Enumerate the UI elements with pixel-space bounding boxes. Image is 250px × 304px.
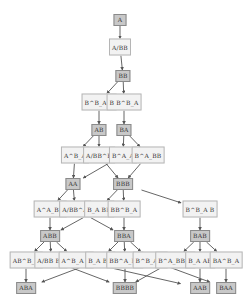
word-node: ABA — [16, 282, 36, 294]
node-label: ABB — [43, 233, 57, 239]
node-label: BBBB — [116, 285, 134, 291]
move-node: B^B_A B — [183, 201, 218, 218]
edge-arrow — [35, 242, 45, 252]
edge-arrow — [207, 242, 217, 252]
node-label: B^A_BB — [135, 152, 162, 158]
edge-arrow — [106, 164, 118, 179]
word-node: BAB — [190, 230, 210, 242]
node-label: BB — [118, 73, 127, 79]
edge-arrow — [109, 242, 119, 252]
edge-arrow — [130, 136, 140, 147]
word-node: BBA — [114, 230, 134, 242]
node-label: BB^B_A — [111, 206, 138, 212]
word-node: BA — [116, 124, 131, 136]
node-label: B_A AB — [188, 257, 212, 263]
node-label: BBA — [117, 233, 131, 239]
word-node: ABB — [40, 230, 60, 242]
edge-arrow — [58, 190, 68, 201]
node-label: AA — [68, 181, 77, 187]
rewriting-graph: AA/BBBBB^B_A BB B^B_AABBAA^B_AA/BB^BB^A_… — [0, 0, 250, 304]
node-label: BBB — [116, 181, 130, 187]
node-label: BA — [119, 127, 128, 133]
edge-arrow — [121, 56, 123, 71]
move-node: B^A_BB — [132, 147, 165, 164]
word-node: BBBB — [113, 282, 137, 294]
word-node: A — [114, 14, 127, 26]
edge-arrow — [57, 242, 67, 252]
word-node: BAA — [216, 282, 236, 294]
word-node: AA — [65, 178, 80, 190]
edge-arrow — [90, 218, 113, 231]
node-label: B^B_A B — [186, 206, 215, 212]
edge-arrow — [169, 267, 210, 282]
word-node: BB — [115, 70, 130, 82]
move-node: BA^B_A — [210, 252, 243, 269]
node-label: B B^B_A — [110, 99, 139, 105]
node-label: AAB — [193, 285, 207, 291]
edge-arrow — [141, 190, 180, 203]
edge-arrow — [73, 164, 74, 179]
move-node: A/BB — [109, 39, 131, 56]
edge-arrow — [131, 242, 141, 252]
edge-arrow — [136, 269, 160, 283]
edge-arrow — [107, 190, 117, 201]
node-label: BA^B_A — [213, 257, 240, 263]
node-label: A/BB — [112, 44, 128, 50]
edge-arrow — [83, 136, 93, 147]
edge-arrow — [128, 164, 141, 179]
edge-arrow — [107, 82, 118, 94]
move-node: B B^B_A — [107, 94, 142, 111]
node-label: A — [118, 17, 123, 23]
node-label: ABA — [19, 285, 33, 291]
edge-arrow — [184, 242, 194, 252]
edge-arrow — [61, 218, 84, 231]
edge-arrow — [83, 164, 108, 179]
move-node: BB^B_A — [108, 201, 141, 218]
edge-arrow — [73, 190, 74, 201]
node-label: BAB — [193, 233, 207, 239]
word-node: BBB — [113, 178, 133, 190]
node-label: AB — [94, 127, 103, 133]
word-node: AAB — [190, 282, 210, 294]
word-node: AB — [91, 124, 106, 136]
edge-arrow — [42, 267, 81, 282]
node-label: BAA — [219, 285, 233, 291]
